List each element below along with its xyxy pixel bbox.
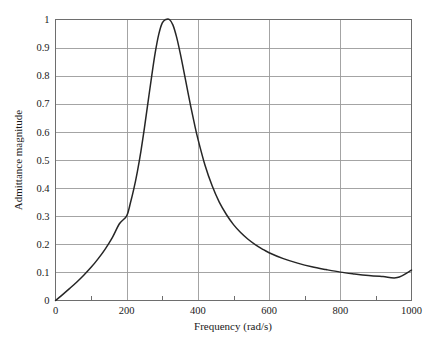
x-tick-label: 200	[119, 305, 135, 316]
plot-frame	[56, 20, 412, 301]
y-tick-label: 0.2	[36, 239, 49, 250]
vertical-gridlines	[128, 20, 341, 301]
y-tick-label: 0.8	[36, 70, 49, 81]
y-tick-label: 0.5	[36, 155, 49, 166]
y-tick-label: 0.6	[36, 127, 49, 138]
x-tick-label: 0	[53, 305, 58, 316]
chart-figure: 02004006008001000 00.10.20.30.40.50.60.7…	[0, 0, 437, 347]
admittance-curve	[56, 19, 412, 301]
y-tick-label: 1	[44, 14, 49, 25]
y-axis-tick-labels: 00.10.20.30.40.50.60.70.80.91	[36, 14, 50, 306]
x-axis-tickmarks	[92, 296, 377, 301]
y-axis-title: Admittance magnitude	[12, 110, 24, 211]
x-tick-label: 600	[261, 305, 277, 316]
x-tick-label: 1000	[401, 305, 422, 316]
y-tick-label: 0.7	[36, 98, 49, 109]
x-axis-tick-labels: 02004006008001000	[53, 305, 422, 316]
x-axis-title: Frequency (rad/s)	[194, 320, 272, 333]
y-tick-label: 0.1	[36, 267, 49, 278]
y-tick-label: 0.4	[36, 183, 50, 194]
admittance-magnitude-chart: 02004006008001000 00.10.20.30.40.50.60.7…	[0, 0, 437, 347]
horizontal-gridlines	[56, 49, 412, 273]
y-tick-label: 0	[44, 295, 49, 306]
x-tick-label: 800	[332, 305, 348, 316]
y-tick-label: 0.9	[36, 42, 49, 53]
x-tick-label: 400	[190, 305, 206, 316]
y-tick-label: 0.3	[36, 211, 49, 222]
